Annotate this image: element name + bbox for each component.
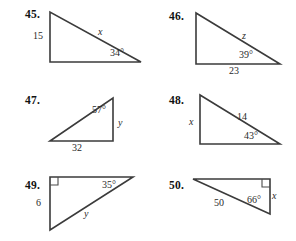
triangle-outline	[50, 177, 133, 230]
label-leg-vertical: x	[272, 191, 276, 201]
label-hypotenuse: y	[84, 209, 88, 219]
label-hypotenuse: 50	[214, 198, 224, 208]
right-angle-marker	[50, 177, 58, 185]
label-hypotenuse: x	[98, 27, 102, 37]
problem-48-figure	[148, 80, 296, 158]
triangle-outline	[196, 13, 280, 64]
label-leg-horizontal: 32	[72, 143, 82, 153]
label-hypotenuse: z	[242, 31, 246, 41]
triangle-outline	[50, 12, 141, 62]
label-leg-vertical: 6	[36, 198, 41, 208]
problem-46-figure	[148, 0, 296, 80]
label-angle: 66°	[247, 195, 261, 205]
problem-45: 45. 15 x 34°	[0, 0, 148, 80]
problem-49: 49. 35° 6 y	[0, 158, 148, 241]
label-leg-vertical: y	[118, 118, 122, 128]
label-angle: 34°	[110, 48, 124, 58]
problem-45-figure	[0, 0, 148, 80]
problem-48: 48. x 14 43°	[148, 80, 296, 158]
label-angle: 43°	[244, 131, 258, 141]
problem-46: 46. z 39° 23	[148, 0, 296, 80]
problem-50: 50. 50 66° x	[148, 158, 296, 241]
label-leg-vertical: x	[189, 117, 193, 127]
right-angle-marker	[262, 179, 270, 187]
label-leg-vertical: 15	[33, 31, 43, 41]
label-angle: 57°	[92, 105, 106, 115]
label-leg-horizontal: 23	[229, 66, 239, 76]
label-angle: 35°	[102, 180, 116, 190]
label-angle: 39°	[239, 50, 253, 60]
problem-47: 47. 57° y 32	[0, 80, 148, 158]
label-hypotenuse: 14	[237, 112, 247, 122]
worksheet-page: 45. 15 x 34° 46. z 39° 23 47. 57° y 32 4…	[0, 0, 296, 241]
problem-49-figure	[0, 158, 148, 241]
